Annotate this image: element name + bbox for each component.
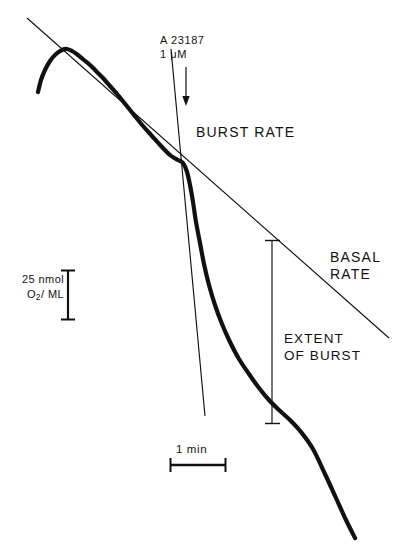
- y-scale-label: 25 nmolO2/ ML: [10, 272, 64, 305]
- y-scale-label-units: / ML: [41, 288, 64, 300]
- x-scale-label: 1 min: [176, 443, 207, 455]
- basal-rate-label: BASALRATE: [330, 249, 381, 283]
- basal-rate-label-line2: RATE: [330, 266, 371, 282]
- agent-concentration: 1 μM: [160, 48, 187, 60]
- y-scale-label-o2: O: [27, 288, 36, 300]
- basal-rate-label-line1: BASAL: [330, 249, 381, 265]
- extent-label-line1: EXTENT: [284, 331, 344, 346]
- extent-of-burst-label: EXTENTOF BURST: [284, 330, 361, 364]
- y-scale-label-line1: 25 nmol: [22, 273, 64, 285]
- extent-label-line2: OF BURST: [284, 348, 361, 363]
- agent-label: A 231871 μM: [160, 33, 205, 61]
- agent-name: A 23187: [160, 34, 205, 46]
- burst-rate-label: BURST RATE: [196, 124, 295, 140]
